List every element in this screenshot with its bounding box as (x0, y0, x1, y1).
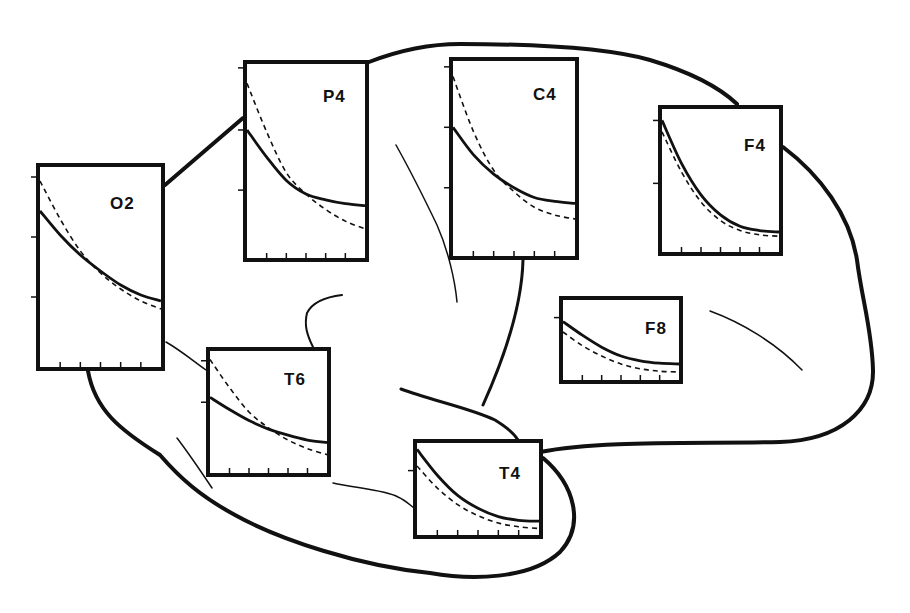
outline-left-top (165, 118, 243, 185)
dashed-curve (662, 132, 779, 236)
panel-f4: F4 (658, 105, 783, 256)
panel-o2: O2 (36, 163, 165, 371)
solid-curve (210, 397, 327, 442)
plot-t4 (417, 443, 539, 535)
dashed-curve (453, 77, 575, 219)
plot-t6 (210, 351, 327, 473)
solid-curve (563, 322, 679, 364)
solid-curve (453, 127, 575, 203)
dashed-curve (40, 181, 161, 309)
sulcus-precentral (483, 260, 523, 405)
sulcus-sylvian (401, 389, 518, 440)
dashed-curve (563, 332, 679, 372)
sulcus-frontal (710, 311, 802, 370)
plot-o2 (40, 167, 161, 367)
panel-t6: T6 (206, 347, 331, 477)
sulcus-hook (306, 295, 342, 347)
plot-c4 (453, 61, 575, 256)
solid-curve (662, 120, 779, 232)
sulcus-central (396, 145, 457, 302)
solid-curve (417, 449, 539, 521)
plot-f4 (662, 109, 779, 252)
sulcus-occipital (166, 342, 206, 370)
sulcus-temporal (333, 483, 414, 508)
plot-f8 (563, 300, 679, 380)
panel-f8: F8 (559, 296, 683, 384)
panel-t4: T4 (413, 439, 543, 539)
brain-figure: O2 P4 C4 F4 F8 T6 T4 (0, 0, 910, 613)
solid-curve (40, 211, 161, 301)
panel-p4: P4 (243, 60, 369, 262)
panel-c4: C4 (449, 57, 579, 260)
plot-p4 (247, 64, 365, 258)
